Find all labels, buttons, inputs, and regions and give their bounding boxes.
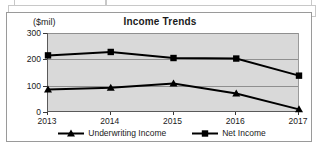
y-axis-tick-label: 200 bbox=[11, 54, 41, 64]
data-point-marker bbox=[296, 72, 302, 78]
chart-container: Income Trends ($mil) 0100200300 20132014… bbox=[6, 12, 312, 142]
y-axis-title: ($mil) bbox=[33, 17, 56, 27]
legend-label: Underwriting Income bbox=[88, 128, 166, 138]
x-axis-tick-mark bbox=[47, 112, 48, 115]
series-underwriting-income bbox=[44, 80, 303, 113]
plot-area bbox=[47, 33, 299, 112]
x-axis-tick-label: 2014 bbox=[90, 116, 130, 126]
series-net-income bbox=[45, 49, 302, 79]
x-axis-tick-label: 2017 bbox=[278, 116, 318, 126]
square-marker-icon bbox=[192, 129, 218, 138]
chart-legend: Underwriting IncomeNet Income bbox=[37, 126, 287, 140]
data-point-marker bbox=[170, 55, 176, 61]
x-axis-tick-mark bbox=[173, 112, 174, 115]
x-axis-tick-mark bbox=[298, 112, 299, 115]
x-axis-tick-label: 2015 bbox=[153, 116, 193, 126]
series-line bbox=[48, 84, 299, 110]
x-axis-tick-mark bbox=[235, 112, 236, 115]
legend-label: Net Income bbox=[222, 128, 265, 138]
data-point-marker bbox=[45, 52, 51, 58]
y-axis-tick-label: 100 bbox=[11, 81, 41, 91]
x-axis-tick-label: 2013 bbox=[27, 116, 67, 126]
data-point-marker bbox=[233, 55, 239, 61]
legend-item[interactable]: Underwriting Income bbox=[58, 128, 166, 138]
data-point-marker bbox=[108, 49, 114, 55]
y-axis-tick-label: 300 bbox=[11, 28, 41, 38]
x-axis-tick-mark bbox=[110, 112, 111, 115]
x-axis-tick-label: 2016 bbox=[215, 116, 255, 126]
triangle-marker-icon bbox=[58, 129, 84, 138]
legend-item[interactable]: Net Income bbox=[192, 128, 265, 138]
scanned-table-fragment bbox=[0, 0, 325, 10]
series-layer bbox=[48, 33, 300, 112]
